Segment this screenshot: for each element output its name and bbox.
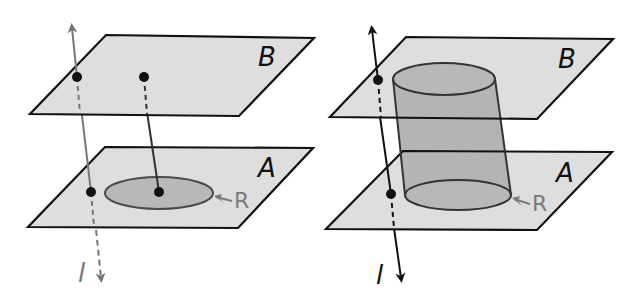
label-plane-b-left: B (258, 42, 276, 72)
point-segment-in-r (154, 187, 164, 197)
label-line-l-right: l (376, 260, 384, 290)
label-region-r-right: R (532, 191, 547, 216)
cylinder-top (393, 63, 495, 95)
point-l-on-a-right (386, 189, 396, 199)
label-line-l-left: l (78, 258, 86, 288)
right-figure: B A R l (326, 30, 613, 290)
region-r-base (405, 180, 511, 210)
label-region-r-left: R (234, 188, 249, 213)
point-l-on-b-right (373, 75, 383, 85)
left-figure: B A R l (28, 28, 314, 288)
parallel-planes-diagram: B A R l B (0, 0, 636, 296)
label-plane-b-right: B (558, 44, 576, 74)
point-l-on-b (72, 72, 82, 82)
point-l-on-a (86, 187, 96, 197)
point-segment-on-b (139, 72, 149, 82)
line-l-lower-segment-right (394, 228, 401, 278)
label-plane-a-left: A (256, 153, 276, 183)
label-plane-a-right: A (554, 158, 574, 188)
diagram-canvas: B A R l B (0, 0, 636, 296)
